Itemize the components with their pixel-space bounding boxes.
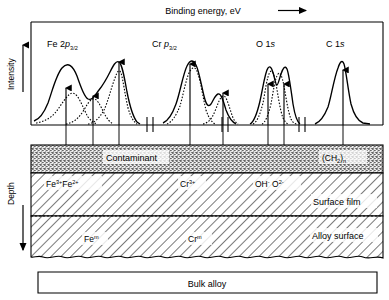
- curve-fe2-component: [66, 99, 113, 124]
- contaminant-label: Contaminant: [106, 153, 158, 163]
- depth-label: Depth: [6, 182, 16, 205]
- bulk-alloy-label: Bulk alloy: [188, 279, 227, 289]
- region-label-fe2p: Fe 2p3/2: [47, 39, 78, 51]
- depth-axis: Depth: [6, 182, 23, 250]
- curve-o1s-envelope: [250, 67, 300, 124]
- xps-depth-profile-figure: Binding energy, eV Intensity Fe 2p3/2 Cr…: [0, 0, 389, 300]
- curve-cr3-component: [167, 68, 215, 124]
- layer-surface-film: Fe3+Fe2+ Cr3+ OH- O2- Surface film: [31, 173, 383, 216]
- layer-alloy-surface: Alloy surface Fem Crm: [31, 216, 383, 258]
- region-label-cr2p: Cr p3/2: [152, 39, 177, 51]
- ch2n-label: (CH2)n: [322, 153, 346, 164]
- binding-energy-axis-label: Binding energy, eV: [165, 6, 306, 16]
- layer-bulk-alloy: Bulk alloy: [38, 272, 377, 293]
- peak-assignment-arrows: [66, 62, 343, 125]
- curve-cr-envelope: [163, 61, 236, 124]
- figure-root: Binding energy, eV Intensity Fe 2p3/2 Cr…: [0, 0, 389, 300]
- alloy-surface-label: Alloy surface: [312, 231, 364, 241]
- curve-fe-metal-component: [88, 71, 137, 124]
- curve-cr-metal-component: [203, 96, 238, 124]
- spectra-region-labels: Fe 2p3/2 Cr p3/2 O 1s C 1s: [47, 39, 345, 51]
- region-label-o1s: O 1s: [256, 39, 276, 49]
- intensity-axis: Intensity: [6, 45, 23, 92]
- surface-film-label: Surface film: [313, 197, 361, 207]
- intensity-label: Intensity: [6, 58, 16, 90]
- layer-contaminant: Contaminant (CH2)n: [31, 145, 383, 173]
- spectra-curves: [34, 61, 370, 124]
- region-label-c1s: C 1s: [326, 39, 345, 49]
- binding-energy-text: Binding energy, eV: [165, 6, 240, 16]
